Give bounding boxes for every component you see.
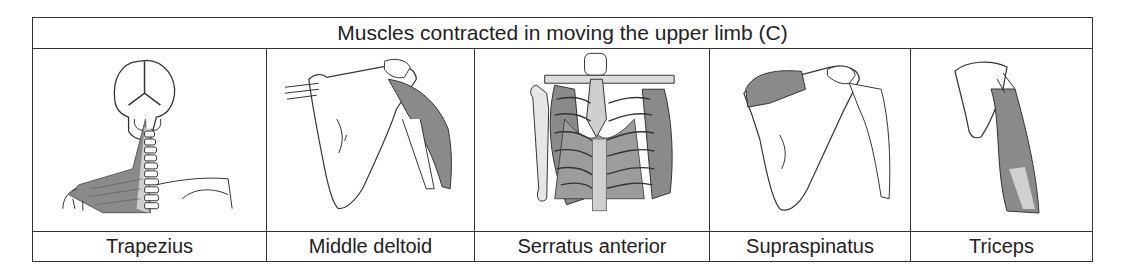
supraspinatus-drawing-icon	[710, 49, 910, 231]
label-middle-deltoid: Middle deltoid	[267, 231, 475, 261]
label-trapezius: Trapezius	[33, 231, 267, 261]
label-serratus-anterior: Serratus anterior	[475, 231, 710, 261]
trapezius-drawing-icon	[33, 49, 266, 231]
middle-deltoid-drawing-icon	[267, 49, 474, 231]
middle-deltoid-illustration	[267, 49, 475, 231]
muscles-table: Muscles contracted in moving the upper l…	[32, 17, 1093, 262]
triceps-drawing-icon	[911, 49, 1092, 231]
trapezius-illustration	[33, 49, 267, 231]
serratus-anterior-illustration	[475, 49, 710, 231]
label-supraspinatus: Supraspinatus	[710, 231, 911, 261]
table-title: Muscles contracted in moving the upper l…	[33, 18, 1092, 49]
triceps-illustration	[911, 49, 1092, 231]
serratus-anterior-drawing-icon	[475, 49, 709, 231]
label-triceps: Triceps	[911, 231, 1092, 261]
supraspinatus-illustration	[710, 49, 911, 231]
